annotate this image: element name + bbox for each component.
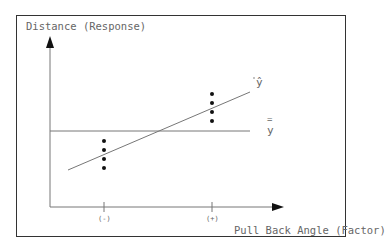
y-axis-label: Distance (Response) bbox=[26, 20, 146, 32]
x-tick-label-plus: (+) bbox=[206, 215, 219, 223]
x-axis-label: Pull Back Angle (Factor) bbox=[234, 224, 386, 236]
x-tick-label-minus: (-) bbox=[98, 215, 111, 223]
fitted-line-label: ŷ bbox=[256, 76, 263, 89]
mean-line-label: y bbox=[267, 124, 274, 137]
mean-line-overmark: = bbox=[267, 115, 272, 124]
y-axis-arrow-icon bbox=[46, 36, 54, 48]
x-axis-arrow-icon bbox=[272, 203, 284, 211]
